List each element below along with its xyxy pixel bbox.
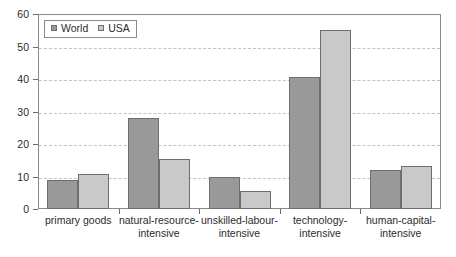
bar (78, 174, 109, 209)
y-tick-label: 30 (17, 107, 29, 118)
x-category-label: unskilled-labour- intensive (195, 214, 284, 240)
legend-label: World (61, 23, 88, 34)
bar-group (128, 14, 190, 209)
bar (47, 180, 78, 209)
x-category-label: human-capital- intensive (356, 214, 445, 240)
x-category-label: natural-resource- intensive (115, 214, 204, 240)
legend-label: USA (108, 23, 130, 34)
y-tick-label: 0 (23, 204, 29, 215)
bar (159, 159, 190, 209)
legend-entry: USA (98, 23, 130, 34)
bar (370, 170, 401, 209)
x-category-label: primary goods (34, 214, 123, 227)
x-category-label: technology- intensive (276, 214, 365, 240)
bar (128, 118, 159, 209)
bar (289, 77, 320, 209)
y-axis: 0102030405060 (0, 0, 38, 257)
y-tick-label: 20 (17, 139, 29, 150)
x-axis-labels: primary goodsnatural-resource- intensive… (38, 214, 441, 254)
bars-layer (38, 14, 441, 209)
bar-group (370, 14, 432, 209)
bar (209, 177, 240, 210)
bar-group (289, 14, 351, 209)
bar (240, 191, 271, 209)
bar-group (209, 14, 271, 209)
y-tick-label: 60 (17, 9, 29, 20)
y-tick-label: 50 (17, 42, 29, 53)
bar (320, 30, 351, 209)
bar-chart: 0102030405060 primary goodsnatural-resou… (0, 0, 456, 257)
bar (401, 166, 432, 209)
y-tick-label: 10 (17, 172, 29, 183)
square-swatch-icon (98, 25, 104, 31)
bar-group (47, 14, 109, 209)
chart-legend: WorldUSA (44, 20, 137, 38)
legend-entry: World (51, 23, 88, 34)
square-swatch-icon (51, 25, 57, 31)
y-tick-label: 40 (17, 74, 29, 85)
